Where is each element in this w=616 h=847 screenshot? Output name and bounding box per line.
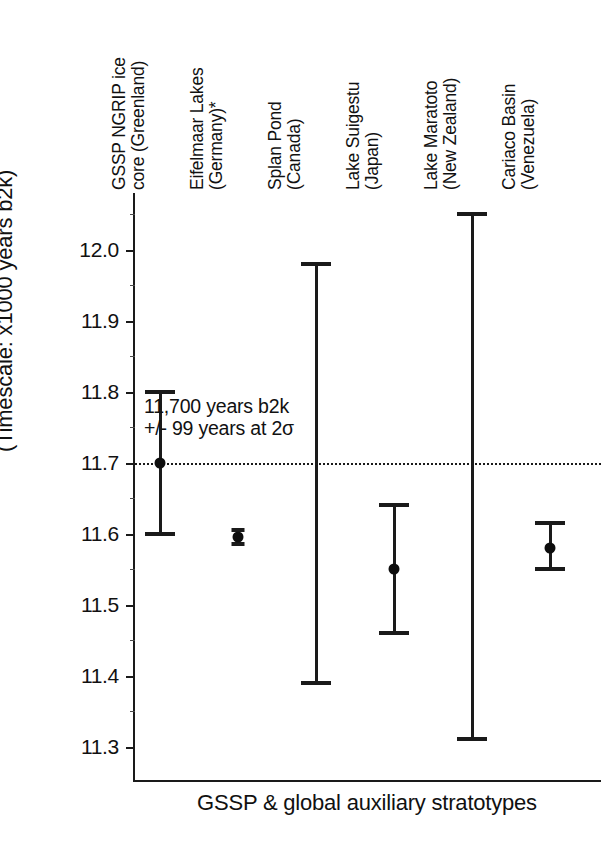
y-axis-tick-labels: 11.311.411.511.611.711.811.912.0 bbox=[0, 193, 133, 782]
reference-line-11700 bbox=[135, 463, 601, 465]
annotation-line-2: +/- 99 years at 2σ bbox=[144, 417, 294, 439]
error-bar-line bbox=[471, 214, 474, 739]
y-axis-label: 11.6 bbox=[81, 522, 119, 546]
category-header-line: (Venezuela) bbox=[519, 84, 538, 190]
data-point-marker bbox=[389, 564, 400, 575]
category-header-line: Eifelmaar Lakes bbox=[188, 68, 207, 190]
y-axis-label: 11.4 bbox=[81, 664, 119, 688]
data-point-marker bbox=[233, 532, 244, 543]
category-header: Lake Suigestu(Japan) bbox=[344, 82, 382, 190]
y-tick-minor bbox=[130, 427, 135, 428]
chart-figure: (Timescale: x1000 years b2k) 11.311.411.… bbox=[0, 0, 616, 847]
y-tick-major bbox=[126, 605, 135, 607]
band-annotation: 11,700 years b2k +/- 99 years at 2σ bbox=[144, 395, 294, 439]
y-axis-label: 11.8 bbox=[81, 380, 119, 404]
error-bar-line bbox=[315, 264, 318, 683]
category-header-line: core (Greenland) bbox=[129, 57, 148, 190]
y-tick-minor bbox=[130, 214, 135, 215]
category-header: Lake Maratoto(New Zealand) bbox=[422, 78, 460, 190]
category-header-line: Lake Suigestu bbox=[344, 82, 363, 190]
y-axis-label: 11.9 bbox=[81, 309, 119, 333]
category-header-line: GSSP NGRIP ice bbox=[110, 57, 129, 190]
error-bar-cap-lower bbox=[145, 532, 175, 536]
category-headers: GSSP NGRIP icecore (Greenland)Eifelmaar … bbox=[133, 8, 601, 190]
y-tick-major bbox=[126, 321, 135, 323]
y-tick-major bbox=[126, 463, 135, 465]
y-axis-label: 12.0 bbox=[79, 238, 119, 262]
category-header-line: (New Zealand) bbox=[441, 78, 460, 190]
category-header-line: Cariaco Basin bbox=[500, 84, 519, 190]
error-bar-cap-upper bbox=[457, 212, 487, 216]
y-tick-major bbox=[126, 250, 135, 252]
y-tick-minor bbox=[130, 569, 135, 570]
category-header-line: Splan Pond bbox=[266, 102, 285, 191]
y-tick-minor bbox=[130, 356, 135, 357]
y-tick-minor bbox=[130, 285, 135, 286]
data-point-marker bbox=[155, 457, 166, 468]
annotation-line-1: 11,700 years b2k bbox=[144, 395, 294, 417]
error-bar-cap-upper bbox=[301, 262, 331, 266]
category-header: GSSP NGRIP icecore (Greenland) bbox=[110, 57, 148, 190]
category-header: Cariaco Basin(Venezuela) bbox=[500, 84, 538, 190]
error-bar-cap-lower bbox=[301, 681, 331, 685]
category-header: Eifelmaar Lakes(Germany)* bbox=[188, 68, 226, 190]
category-header-line: (Canada) bbox=[285, 102, 304, 191]
y-tick-major bbox=[126, 534, 135, 536]
y-tick-major bbox=[126, 392, 135, 394]
y-tick-major bbox=[126, 747, 135, 749]
error-bar-cap-lower bbox=[535, 567, 565, 571]
error-bar-cap-lower bbox=[379, 631, 409, 635]
category-header: Splan Pond(Canada) bbox=[266, 102, 304, 191]
y-tick-minor bbox=[130, 711, 135, 712]
error-bar-cap-upper bbox=[145, 390, 175, 394]
error-bar-cap-upper bbox=[535, 521, 565, 525]
y-axis-label: 11.3 bbox=[81, 735, 119, 759]
error-bar-cap-lower bbox=[457, 737, 487, 741]
plot-area bbox=[133, 193, 601, 782]
y-tick-minor bbox=[130, 498, 135, 499]
category-header-line: (Japan) bbox=[363, 82, 382, 190]
data-point-marker bbox=[545, 542, 556, 553]
x-axis-title: GSSP & global auxiliary stratotypes bbox=[133, 790, 601, 816]
y-tick-major bbox=[126, 676, 135, 678]
error-bar-cap-upper bbox=[379, 503, 409, 507]
y-axis-label: 11.5 bbox=[81, 593, 119, 617]
category-header-line: (Germany)* bbox=[207, 68, 226, 190]
error-bar-cap-lower bbox=[232, 542, 245, 546]
category-header-line: Lake Maratoto bbox=[422, 78, 441, 190]
y-tick-minor bbox=[130, 640, 135, 641]
y-axis-label: 11.7 bbox=[81, 451, 119, 475]
